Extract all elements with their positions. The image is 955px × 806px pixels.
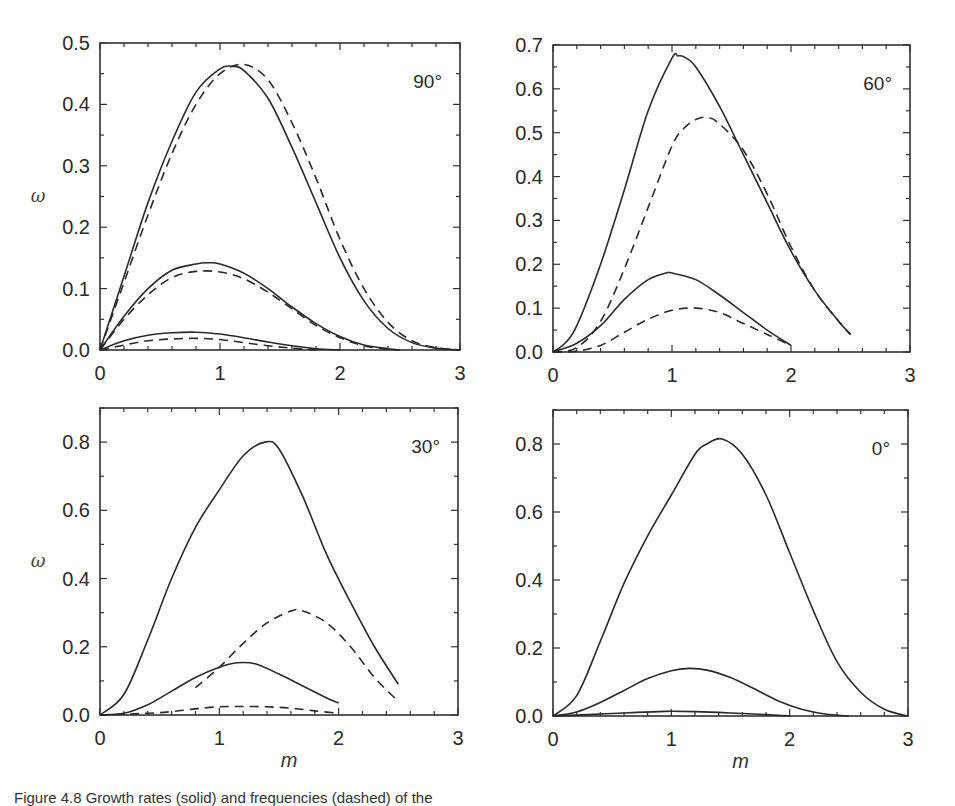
- y-tick-label: 0.7: [515, 34, 543, 56]
- y-tick-label: 0.6: [515, 78, 543, 100]
- y-tick-label: 0.4: [62, 568, 90, 590]
- x-tick-label: 0: [94, 362, 105, 384]
- y-tick-label: 0.2: [515, 253, 543, 275]
- plot-frame: [553, 45, 910, 352]
- x-tick-label: 3: [902, 728, 913, 750]
- y-tick-label: 0.4: [515, 166, 543, 188]
- y-tick-label: 0.1: [515, 297, 543, 319]
- y-tick-label: 0.0: [515, 341, 543, 363]
- x-tick-label: 3: [452, 727, 463, 749]
- plot-frame: [553, 410, 908, 716]
- y-tick-label: 0.5: [62, 32, 90, 54]
- y-tick-label: 0.0: [62, 339, 90, 361]
- chart-panel-3: 01230.00.20.40.60.80°m: [515, 410, 913, 772]
- x-axis-label: m: [281, 749, 298, 771]
- x-tick-label: 1: [666, 728, 677, 750]
- plot-frame: [100, 43, 460, 350]
- y-tick-label: 0.4: [62, 93, 90, 115]
- panel-angle-label: 30°: [411, 436, 440, 457]
- y-tick-label: 0.2: [62, 216, 90, 238]
- y-tick-label: 0.5: [515, 122, 543, 144]
- y-tick-label: 0.0: [515, 705, 543, 727]
- x-tick-label: 2: [333, 727, 344, 749]
- solid-curve: [553, 272, 791, 352]
- y-tick-label: 0.0: [62, 704, 90, 726]
- y-axis-label: ω: [31, 185, 46, 206]
- solid-curve: [100, 263, 400, 350]
- x-tick-label: 2: [785, 364, 796, 386]
- y-tick-label: 0.4: [515, 569, 543, 591]
- chart-panel-1: 01230.00.10.20.30.40.50.60.760°: [515, 34, 915, 386]
- y-tick-label: 0.6: [62, 499, 90, 521]
- y-tick-label: 0.6: [515, 501, 543, 523]
- solid-curve: [100, 66, 460, 350]
- y-tick-label: 0.3: [62, 155, 90, 177]
- x-tick-label: 0: [94, 727, 105, 749]
- x-tick-label: 3: [904, 364, 915, 386]
- dashed-curve: [100, 64, 460, 350]
- x-tick-label: 0: [547, 728, 558, 750]
- solid-curve: [553, 668, 849, 716]
- x-tick-label: 3: [454, 362, 465, 384]
- chart-panel-0: 01230.00.10.20.30.40.590°ω: [31, 32, 466, 384]
- plot-frame: [100, 408, 458, 715]
- x-tick-label: 2: [784, 728, 795, 750]
- panel-angle-label: 60°: [863, 73, 892, 94]
- solid-curve: [100, 441, 398, 715]
- x-tick-label: 0: [547, 364, 558, 386]
- panel-angle-label: 0°: [872, 438, 890, 459]
- x-tick-label: 2: [334, 362, 345, 384]
- x-tick-label: 1: [214, 362, 225, 384]
- y-axis-label: ω: [31, 550, 46, 571]
- chart-panel-2: 01230.00.20.40.60.830°ωm: [31, 408, 464, 771]
- y-tick-label: 0.2: [62, 636, 90, 658]
- y-tick-label: 0.3: [515, 209, 543, 231]
- y-tick-label: 0.2: [515, 637, 543, 659]
- x-tick-label: 1: [666, 364, 677, 386]
- dashed-curve: [553, 117, 851, 352]
- figure-caption: Figure 4.8 Growth rates (solid) and freq…: [14, 789, 433, 806]
- y-tick-label: 0.8: [515, 433, 543, 455]
- panel-angle-label: 90°: [413, 71, 442, 92]
- solid-curve: [553, 439, 908, 716]
- y-tick-label: 0.1: [62, 278, 90, 300]
- dashed-curve: [195, 609, 398, 701]
- y-tick-label: 0.8: [62, 431, 90, 453]
- x-tick-label: 1: [214, 727, 225, 749]
- x-axis-label: m: [732, 750, 749, 772]
- solid-curve: [553, 53, 851, 352]
